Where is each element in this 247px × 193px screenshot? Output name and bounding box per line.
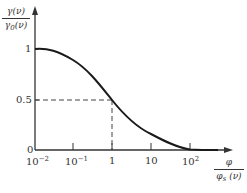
x-axis-arrow-icon [224,147,233,153]
tick-base: 10 [26,156,39,167]
fraction-bar [214,169,244,170]
x-tick-label-1: 1 [109,156,115,166]
tick-base: 10 [182,156,195,167]
tick-exp: −2 [39,155,49,163]
y-axis-label: γ(ν) γ0(ν) [2,6,30,34]
tick-base: 10 [65,156,78,167]
x-tick-label-10: 10 [145,156,158,166]
x-tick-label-1e-2: 10−2 [26,156,49,167]
y-tick-label-0: 0 [27,145,33,155]
y-axis-label-numerator: γ(ν) [2,6,30,17]
x-axis-label: φ φs (ν) [214,157,244,185]
tick-exp: −1 [78,155,88,163]
den-tail: (ν) [226,171,241,181]
y-axis-label-denominator: γ0(ν) [2,20,30,34]
fraction-bar [2,18,30,19]
x-tick-label-1e-1: 10−1 [65,156,88,167]
x-axis-label-numerator: φ [214,157,244,168]
tick-exp: 2 [195,155,199,163]
y-axis-arrow-icon [32,6,38,15]
y-tick-label-1: 1 [25,44,31,54]
x-axis-label-denominator: φs (ν) [214,171,244,185]
data-curve [35,49,218,150]
x-tick-label-1e2: 102 [182,156,199,167]
den-tail: (ν) [15,20,28,30]
y-tick-label-0.5: 0.5 [16,95,32,105]
